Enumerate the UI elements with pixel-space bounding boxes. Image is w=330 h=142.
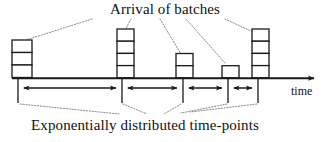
batch-stack-5 [252, 29, 269, 78]
batch-5-box-4 [252, 29, 269, 41]
batch-3-box-1 [176, 66, 193, 78]
arrival-leader-lines [26, 19, 253, 63]
figure-caption-exponential-timepoints: Exponentially distributed time-points [0, 118, 290, 133]
leader-line-timepoint-2 [123, 104, 147, 114]
batch-1-box-1 [12, 65, 32, 78]
batch-2-box-1 [117, 66, 134, 78]
interval-boundary-ticks [18, 78, 258, 103]
batch-2-box-3 [117, 41, 134, 53]
batch-1-box-2 [12, 53, 32, 66]
figure-arrival-of-batches: Arrival of batches time Exponentially di… [0, 0, 330, 142]
batch-1-box-3 [12, 40, 32, 53]
figure-title-arrival-of-batches: Arrival of batches [0, 2, 330, 17]
batch-stack-3 [176, 54, 193, 78]
batch-2-box-4 [117, 29, 134, 41]
batch-stack-4 [222, 66, 239, 78]
batch-4-box-1 [222, 66, 239, 78]
batch-stack-2 [117, 29, 134, 78]
leader-line-batch-1 [26, 19, 92, 40]
batch-2-box-2 [117, 53, 134, 65]
time-axis-label: time [291, 85, 312, 97]
batch-5-box-3 [252, 41, 269, 53]
leader-line-timepoint-3 [164, 104, 181, 114]
batch-3-box-2 [176, 54, 193, 66]
batch-5-box-2 [252, 53, 269, 65]
leader-line-timepoint-5 [190, 104, 257, 112]
leader-line-timepoint-4 [181, 104, 227, 113]
leader-line-batch-3 [160, 19, 181, 54]
batch-5-box-1 [252, 66, 269, 78]
batch-stack-1 [12, 40, 32, 78]
leader-line-batch-5 [225, 19, 253, 32]
leader-line-timepoint-1 [20, 104, 119, 114]
timepoint-leader-lines [20, 104, 257, 114]
